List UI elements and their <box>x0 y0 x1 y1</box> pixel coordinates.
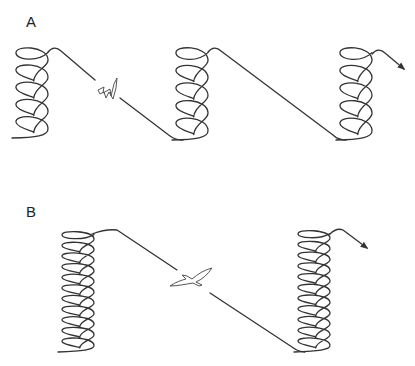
panel-a-flight-path <box>12 48 404 140</box>
panel-b-flight-path <box>58 229 367 352</box>
flight-path-diagram <box>0 0 415 366</box>
flapping-bird-icon <box>98 78 117 99</box>
gliding-bird-icon <box>170 268 212 286</box>
